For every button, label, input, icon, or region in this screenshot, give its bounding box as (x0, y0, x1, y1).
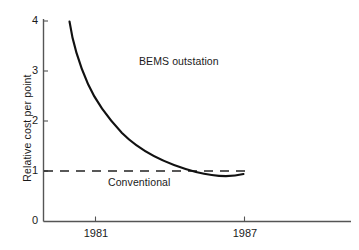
chart-container: Relative cost per point 4 3 2 1 0 1981 1… (0, 0, 359, 250)
y-tick-label-3: 3 (22, 64, 38, 76)
series-label-bems-outstation: BEMS outstation (139, 55, 219, 67)
chart-plot-area (0, 0, 359, 250)
y-tick-label-2: 2 (22, 114, 38, 126)
series-label-conventional: Conventional (108, 176, 171, 188)
x-tick-label-1981: 1981 (71, 227, 121, 239)
y-tick-label-1: 1 (22, 164, 38, 176)
y-tick-label-0: 0 (22, 214, 38, 226)
x-tick-label-1987: 1987 (220, 227, 270, 239)
y-tick-label-4: 4 (22, 14, 38, 26)
series-bems-outstation-curve (70, 22, 244, 177)
